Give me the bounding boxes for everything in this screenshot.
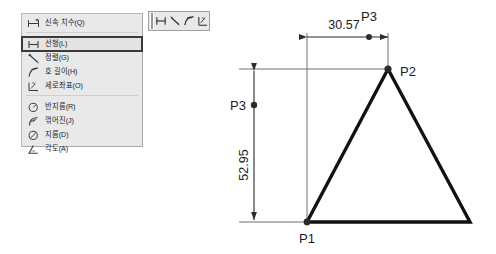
vertical-dimension-marker-label: P3 (230, 98, 246, 113)
svg-text:xy: xy (32, 81, 36, 85)
toolbar-button-aligned[interactable] (168, 13, 182, 29)
jogged-dimension-icon (24, 115, 42, 128)
quick-dimension-icon (24, 17, 42, 30)
menu-item-label: 정렬(G) (42, 54, 69, 62)
menu-item-label: 각도(A) (42, 145, 68, 153)
svg-text:xy: xy (202, 16, 206, 20)
vertex-marker-p2 (384, 65, 391, 72)
point-marker-p3-vertical (251, 102, 257, 108)
menu-item-diameter[interactable]: 지름(D) (22, 128, 142, 142)
menu-item-ordinate[interactable]: xy 세로좌표(O) (22, 79, 142, 93)
angular-dimension-icon (24, 143, 42, 156)
horizontal-dimension-value: 30.57 (328, 18, 359, 32)
vertex-marker-p1 (304, 219, 311, 226)
triangle-shape (307, 69, 470, 222)
vertex-label-p1: P1 (299, 231, 315, 246)
menu-item-label: 신속 치수(Q) (42, 19, 85, 27)
menu-item-label: 호 길이(H) (42, 68, 77, 76)
menu-item-arc-length[interactable]: 호 길이(H) (22, 65, 142, 79)
toolbar-button-arc-length[interactable] (182, 13, 196, 29)
menu-item-angular[interactable]: 각도(A) (22, 142, 142, 156)
diameter-dimension-icon (24, 129, 42, 142)
menu-item-quick-dimension[interactable]: 신속 치수(Q) (22, 16, 142, 30)
toolbar-button-ordinate[interactable]: xy (196, 13, 210, 29)
menu-item-label: 꺾어진(J) (42, 117, 74, 125)
menu-item-label: 지름(D) (42, 131, 68, 139)
vertex-label-p2: P2 (400, 64, 416, 79)
menu-item-jogged[interactable]: 꺾어진(J) (22, 114, 142, 128)
triangle-dimension-drawing: 30.57 P3 P3 52.95 P1 P2 (222, 0, 496, 254)
aligned-dimension-icon (24, 52, 42, 65)
vertical-dimension-value: 52.95 (237, 149, 251, 180)
screenshot-root: 신속 치수(Q) 선형(L) 정렬(G) (0, 0, 496, 254)
menu-item-radius[interactable]: 반지름(R) (22, 100, 142, 114)
dimension-toolbar[interactable]: xy (148, 11, 210, 31)
menu-item-label: 선형(L) (42, 40, 67, 48)
horizontal-dimension-marker-label: P3 (361, 9, 377, 24)
dimension-context-menu[interactable]: 신속 치수(Q) 선형(L) 정렬(G) (21, 13, 143, 147)
linear-dimension-icon (24, 38, 42, 51)
ordinate-dimension-icon: xy (24, 80, 42, 93)
point-marker-p3-horizontal (366, 34, 372, 40)
menu-item-label: 반지름(R) (42, 103, 75, 111)
menu-item-label: 세로좌표(O) (42, 82, 83, 90)
arc-length-icon (24, 66, 42, 79)
radius-dimension-icon (24, 101, 42, 114)
menu-item-linear[interactable]: 선형(L) (22, 37, 142, 51)
menu-item-aligned[interactable]: 정렬(G) (22, 51, 142, 65)
toolbar-button-linear[interactable] (154, 13, 168, 29)
